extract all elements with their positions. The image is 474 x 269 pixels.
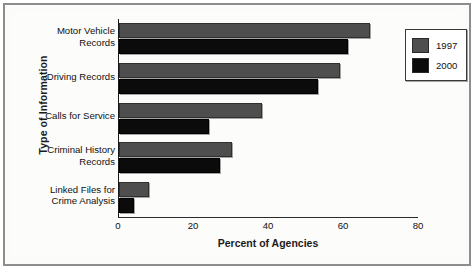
bar-2000	[119, 79, 318, 94]
figure-inner: Type of Information Motor VehicleRecords…	[11, 11, 463, 258]
figure-frame: Type of Information Motor VehicleRecords…	[3, 3, 471, 266]
category-label-line: Calls for Service	[27, 110, 115, 122]
category-label-line: Linked Files for	[27, 184, 115, 196]
legend-item: 2000	[412, 55, 466, 75]
bar-chart: Type of Information Motor VehicleRecords…	[11, 11, 463, 258]
category-label: Calls for Service	[27, 110, 115, 122]
legend-label: 1997	[436, 40, 457, 51]
category-label-line: Records	[27, 37, 115, 49]
x-tick-label: 40	[263, 220, 274, 231]
bar-2000	[119, 198, 134, 213]
category-label: Linked Files forCrime Analysis	[27, 184, 115, 207]
x-tick-label: 20	[188, 220, 199, 231]
legend-swatch	[412, 58, 429, 73]
bar-1997	[119, 182, 149, 197]
bar-1997	[119, 103, 262, 118]
bar-1997	[119, 63, 340, 78]
bar-2000	[119, 39, 348, 54]
category-label-line: Crime Analysis	[27, 195, 115, 207]
category-label-line: Driving Records	[27, 71, 115, 83]
legend-swatch	[412, 38, 429, 53]
x-axis-line	[118, 217, 418, 218]
category-labels: Motor VehicleRecordsDriving RecordsCalls…	[27, 17, 115, 215]
bar-group	[119, 19, 449, 217]
x-axis-ticks: 020406080	[118, 220, 418, 234]
legend: 19972000	[405, 29, 467, 81]
category-label: Motor VehicleRecords	[27, 25, 115, 48]
x-tick-label: 0	[115, 220, 120, 231]
legend-item: 1997	[412, 35, 466, 55]
category-label-line: Motor Vehicle	[27, 25, 115, 37]
bar-1997	[119, 23, 370, 38]
x-tick-label: 80	[413, 220, 424, 231]
x-tick-label: 60	[338, 220, 349, 231]
category-label: Driving Records	[27, 71, 115, 83]
category-label: Criminal HistoryRecords	[27, 144, 115, 167]
x-axis-title: Percent of Agencies	[118, 237, 418, 249]
bar-1997	[119, 142, 232, 157]
category-label-line: Records	[27, 156, 115, 168]
bar-2000	[119, 158, 220, 173]
category-label-line: Criminal History	[27, 144, 115, 156]
legend-label: 2000	[436, 60, 457, 71]
bar-2000	[119, 119, 209, 134]
